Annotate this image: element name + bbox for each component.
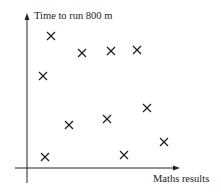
- x-marker-icon: [143, 104, 151, 112]
- x-marker-icon: [65, 121, 73, 129]
- x-axis-label: Maths results: [153, 173, 209, 184]
- axes: [15, 13, 180, 183]
- x-marker-icon: [107, 47, 115, 55]
- x-marker-icon: [133, 46, 141, 54]
- y-axis-arrow-icon: [25, 13, 30, 20]
- x-marker-icon: [41, 153, 49, 161]
- x-marker-icon: [120, 151, 128, 159]
- x-marker-icon: [160, 138, 168, 146]
- x-marker-icon: [47, 32, 55, 40]
- x-marker-icon: [39, 72, 47, 80]
- y-axis-label: Time to run 800 m: [34, 10, 112, 21]
- x-axis-arrow-icon: [173, 166, 180, 171]
- x-marker-icon: [78, 49, 86, 57]
- scatter-plot: [0, 0, 221, 196]
- data-points: [39, 32, 168, 161]
- x-marker-icon: [103, 115, 111, 123]
